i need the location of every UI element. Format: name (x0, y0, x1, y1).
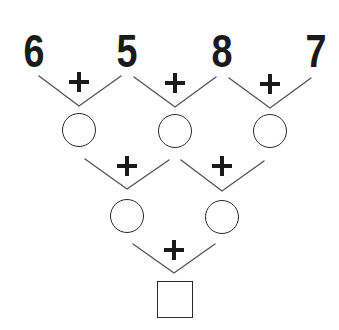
plus-icon (117, 156, 137, 176)
plus-icon (69, 72, 89, 92)
final-answer-box[interactable] (157, 281, 193, 318)
plus-icon (260, 74, 280, 94)
top-number-4: 7 (306, 28, 327, 74)
top-number-3: 8 (212, 28, 233, 74)
answer-circle-r1-1[interactable] (62, 113, 96, 147)
plus-icon (212, 156, 232, 176)
top-number-1: 6 (24, 28, 45, 74)
plus-icon (165, 73, 185, 93)
answer-circle-r2-2[interactable] (205, 200, 239, 234)
answer-circle-r1-2[interactable] (158, 114, 192, 148)
plus-icon (164, 240, 184, 260)
answer-circle-r2-1[interactable] (110, 199, 144, 233)
answer-circle-r1-3[interactable] (253, 114, 287, 148)
top-number-2: 5 (117, 28, 138, 74)
addition-pyramid-diagram: 6 5 8 7 (0, 0, 339, 330)
